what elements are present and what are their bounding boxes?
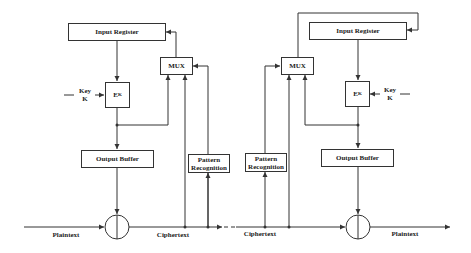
right-pattern-label-1: Pattern bbox=[248, 155, 284, 163]
left-input-register: Input Register bbox=[68, 23, 166, 41]
right-input-register-label: Input Register bbox=[336, 27, 379, 35]
left-input-register-label: Input Register bbox=[95, 28, 138, 36]
right-pattern-recognition: PatternRecognition bbox=[245, 153, 287, 172]
right-output-buffer: Output Buffer bbox=[321, 149, 394, 167]
right-mux: MUX bbox=[281, 57, 314, 75]
right-plaintext-label: Plaintext bbox=[387, 230, 423, 238]
left-encrypt-subscript: K bbox=[118, 91, 122, 99]
right-encrypt-subscript: K bbox=[358, 90, 362, 98]
right-key-symbol: K bbox=[380, 94, 400, 102]
left-ciphertext-label: Ciphertext bbox=[155, 231, 191, 239]
left-pattern-recognition: PatternRecognition bbox=[188, 154, 230, 173]
right-key-text: Key bbox=[380, 86, 400, 94]
left-key-label: KeyK bbox=[75, 87, 95, 103]
right-output-buffer-label: Output Buffer bbox=[336, 154, 379, 162]
left-key-text: Key bbox=[75, 87, 95, 95]
right-ciphertext-label: Ciphertext bbox=[242, 230, 278, 238]
right-pattern-label-2: Recognition bbox=[248, 163, 284, 171]
right-mux-label: MUX bbox=[289, 62, 306, 70]
left-key-symbol: K bbox=[75, 95, 95, 103]
right-key-label: KeyK bbox=[380, 86, 400, 102]
left-output-buffer-label: Output Buffer bbox=[96, 155, 139, 163]
left-mux: MUX bbox=[160, 57, 193, 75]
left-plaintext-label: Plaintext bbox=[48, 231, 84, 239]
right-input-register: Input Register bbox=[309, 22, 407, 40]
left-mux-label: MUX bbox=[168, 62, 185, 70]
left-output-buffer: Output Buffer bbox=[81, 150, 154, 168]
left-encrypt-block: EK bbox=[105, 82, 130, 108]
left-pattern-label-1: Pattern bbox=[191, 156, 227, 164]
left-pattern-label-2: Recognition bbox=[191, 164, 227, 172]
right-encrypt-block: EK bbox=[345, 81, 370, 107]
